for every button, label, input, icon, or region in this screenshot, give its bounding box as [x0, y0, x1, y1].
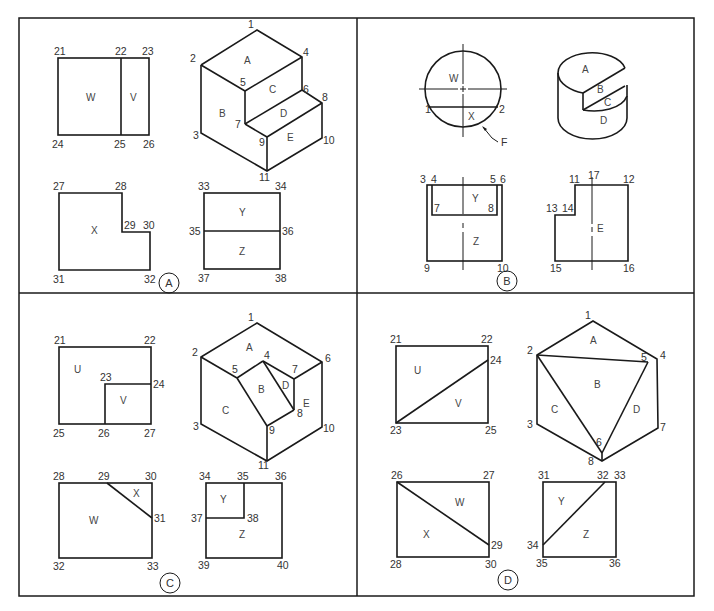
point-label: 28: [390, 558, 402, 570]
panel-d-view-yz: 31 32 33 34 35 36 Y Z: [527, 469, 626, 569]
point-label: 1: [248, 311, 254, 323]
point-label: 1: [248, 18, 254, 30]
point-label: 23: [390, 424, 402, 436]
panel-d-view-wx: 26 27 29 28 30 W X: [390, 469, 503, 570]
face-label: Z: [583, 529, 589, 540]
panel-c-view-uv: 21 22 23 24 25 26 27 U V: [53, 334, 165, 439]
point-label: 34: [275, 180, 287, 192]
point-label: 11: [258, 459, 269, 471]
point-label: 3: [527, 418, 533, 430]
point-label: 27: [53, 180, 65, 192]
point-label: 6: [596, 436, 602, 448]
point-label: 35: [237, 470, 249, 482]
face-label: B: [594, 379, 601, 390]
face-label: E: [597, 223, 604, 234]
badge-label: A: [165, 277, 173, 289]
point-label: 9: [259, 136, 265, 148]
face-label: Y: [220, 494, 227, 505]
point-label: 6: [500, 173, 506, 185]
point-label: 26: [391, 469, 403, 481]
panel-b: 1 2 W X F A B C D: [419, 44, 635, 291]
panel-b-top-view: 1 2 W X F: [419, 44, 507, 148]
point-label: 37: [191, 512, 203, 524]
point-label: 2: [527, 344, 533, 356]
panel-b-pictorial: A B C D: [558, 53, 627, 139]
face-label: X: [133, 488, 140, 499]
point-label: 26: [98, 427, 110, 439]
panel-c-view-yz: 34 35 36 37 38 39 40 Y Z: [191, 470, 289, 571]
panel-a-pictorial: 1 2 4 5 6 8 7 3 9 10 11 A B C D E: [190, 18, 335, 183]
point-label: 6: [325, 352, 331, 364]
point-label: 36: [609, 557, 621, 569]
point-label: 24: [153, 378, 165, 390]
point-label: 11: [569, 173, 580, 185]
point-label: 34: [527, 539, 539, 551]
point-label: 10: [323, 422, 335, 434]
badge-label: B: [503, 275, 510, 287]
point-label: 22: [481, 333, 493, 345]
point-label: 33: [614, 469, 626, 481]
face-label: B: [219, 108, 226, 119]
point-label: 9: [269, 424, 275, 436]
face-label: C: [604, 97, 611, 108]
point-label: 11: [259, 171, 270, 183]
panel-a-badge: A: [159, 273, 179, 293]
face-label: X: [91, 225, 98, 236]
face-label: C: [551, 404, 558, 415]
face-label: Y: [558, 496, 565, 507]
face-label: C: [222, 405, 229, 416]
point-label: 36: [282, 225, 294, 237]
panel-c-view-wx: 28 29 30 31 32 33 W X: [53, 470, 166, 572]
face-label: U: [74, 364, 81, 375]
panel-a: 21 22 23 24 25 26 W V 27 28 29 30 31 32 …: [52, 18, 335, 293]
point-label: 3: [420, 173, 426, 185]
point-label: 29: [491, 539, 503, 551]
point-label: 3: [193, 420, 199, 432]
face-label: W: [455, 497, 465, 508]
panel-c-pictorial: 1 2 4 5 6 7 8 9 3 10 11 A B C D E: [192, 311, 335, 471]
point-label: 8: [588, 455, 594, 467]
panel-d: 21 22 24 23 25 U V 26 27 29 28 30 W X 31…: [390, 309, 666, 590]
point-label: 36: [275, 470, 287, 482]
point-label: 2: [190, 52, 196, 64]
point-label: 21: [54, 45, 66, 57]
point-label: 8: [322, 91, 328, 103]
point-label: 30: [485, 558, 497, 570]
point-label: 4: [660, 349, 666, 361]
face-label: A: [244, 55, 251, 66]
point-label: 7: [660, 421, 666, 433]
point-label: 26: [143, 138, 155, 150]
face-label: V: [120, 395, 127, 406]
point-label: 30: [145, 470, 157, 482]
point-label: 31: [53, 273, 65, 285]
point-label: 9: [424, 262, 430, 274]
face-label: U: [414, 365, 421, 376]
panel-c-badge: C: [160, 573, 180, 593]
point-label: 31: [538, 469, 550, 481]
point-label: 23: [142, 45, 154, 57]
point-label: 16: [623, 262, 635, 274]
panel-a-view-x: 27 28 29 30 31 32 X: [53, 180, 156, 285]
point-label: 33: [198, 180, 210, 192]
panel-b-badge: B: [497, 271, 517, 291]
face-label: D: [600, 115, 607, 126]
point-label: 4: [303, 46, 309, 58]
point-label: 35: [189, 225, 201, 237]
point-label: 31: [154, 512, 166, 524]
point-label: 2: [192, 346, 198, 358]
panel-c: 21 22 23 24 25 26 27 U V 28 29 30 31 32 …: [53, 311, 335, 593]
face-label: W: [86, 92, 96, 103]
point-label: 35: [536, 557, 548, 569]
point-label: 24: [52, 138, 64, 150]
face-label: Y: [239, 207, 246, 218]
face-label: A: [590, 335, 597, 346]
point-label: 28: [53, 470, 65, 482]
point-label: 1: [585, 309, 591, 321]
face-label: C: [269, 84, 276, 95]
exercise-sheet: 21 22 23 24 25 26 W V 27 28 29 30 31 32 …: [0, 0, 714, 611]
face-label: D: [282, 380, 289, 391]
point-label: 28: [115, 180, 127, 192]
point-label: 23: [100, 371, 112, 383]
point-label: 25: [114, 138, 126, 150]
point-label: 4: [264, 349, 270, 361]
